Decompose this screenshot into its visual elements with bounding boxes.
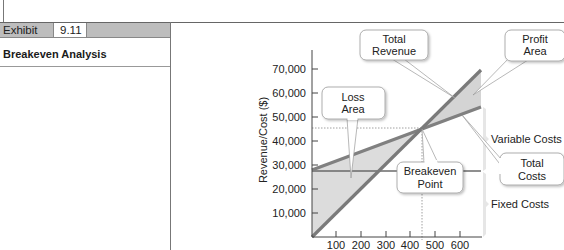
svg-text:Revenue: Revenue [372, 45, 416, 57]
svg-text:Total: Total [382, 33, 405, 45]
svg-text:60,000: 60,000 [272, 87, 306, 99]
x-axis-tick-labels: 100 200 300 400 500 600 [327, 239, 469, 250]
y-axis-tick-labels: 10,000 20,000 30,000 40,000 50,000 60,00… [272, 63, 306, 219]
svg-text:30,000: 30,000 [272, 159, 306, 171]
svg-text:300: 300 [377, 239, 395, 250]
svg-text:Area: Area [523, 45, 547, 57]
svg-text:70,000: 70,000 [272, 63, 306, 75]
svg-text:20,000: 20,000 [272, 183, 306, 195]
svg-text:100: 100 [327, 239, 345, 250]
variable-costs-brace [483, 107, 489, 171]
svg-text:400: 400 [401, 239, 419, 250]
svg-text:200: 200 [352, 239, 370, 250]
svg-text:Loss: Loss [341, 91, 365, 103]
svg-text:Point: Point [417, 178, 442, 190]
svg-text:Profit: Profit [522, 33, 548, 45]
fixed-costs-brace [483, 172, 489, 237]
y-axis-label: Revenue/Cost ($) [257, 97, 269, 183]
callout-total-costs: Total Costs [462, 115, 564, 185]
svg-text:10,000: 10,000 [272, 207, 306, 219]
svg-text:Area: Area [341, 103, 365, 115]
svg-text:500: 500 [426, 239, 444, 250]
svg-text:50,000: 50,000 [272, 111, 306, 123]
svg-text:Total: Total [520, 157, 543, 169]
svg-text:Breakeven: Breakeven [404, 165, 457, 177]
x-axis-ticks [336, 231, 460, 237]
breakeven-chart: 10,000 20,000 30,000 40,000 50,000 60,00… [0, 0, 564, 250]
svg-text:600: 600 [451, 239, 469, 250]
variable-costs-label: Variable Costs [491, 133, 562, 145]
fixed-costs-label: Fixed Costs [491, 198, 550, 210]
svg-text:40,000: 40,000 [272, 135, 306, 147]
svg-text:Costs: Costs [518, 170, 547, 182]
callout-profit-area: Profit Area [473, 30, 564, 95]
